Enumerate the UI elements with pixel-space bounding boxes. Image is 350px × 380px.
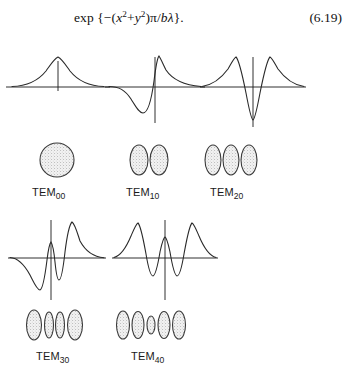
label-tem40-subscript: 40 — [155, 355, 165, 365]
equation-close: }. — [174, 10, 184, 25]
mode-spot — [45, 312, 54, 338]
mode-spot — [40, 143, 74, 177]
label-tem10-prefix: TEM — [126, 186, 150, 198]
label-tem10: TEM10 — [126, 186, 159, 198]
equation-expression: exp {−(x2+y2)π/bλ}. — [74, 10, 184, 26]
label-tem30-subscript: 30 — [60, 355, 70, 365]
equation-plus: + — [127, 10, 135, 25]
equation-var-b: b — [161, 10, 168, 25]
mode-spot — [241, 145, 257, 175]
label-tem00: TEM00 — [32, 186, 65, 198]
mode-spot — [223, 145, 239, 175]
plot-tem20 — [198, 55, 313, 135]
label-tem30-prefix: TEM — [36, 350, 60, 362]
equation-number: (6.19) — [309, 10, 342, 26]
mode-spot — [205, 145, 221, 175]
mode-spot — [68, 310, 83, 340]
mode-spot — [56, 312, 65, 338]
spots-tem10 — [124, 138, 180, 182]
label-tem00-prefix: TEM — [32, 186, 56, 198]
mode-spot — [147, 316, 155, 334]
label-tem20-prefix: TEM — [210, 186, 234, 198]
curve-tem30 — [10, 222, 104, 290]
label-tem30: TEM30 — [36, 350, 69, 362]
mode-spot — [117, 311, 130, 339]
label-tem40: TEM40 — [131, 350, 164, 362]
figure-page: exp {−(x2+y2)π/bλ}. (6.19) — [0, 0, 350, 380]
mode-spot — [130, 145, 148, 175]
spots-tem00 — [36, 138, 80, 182]
mode-spot — [173, 311, 186, 339]
label-tem20-subscript: 20 — [234, 191, 244, 201]
plot-tem30 — [6, 218, 121, 308]
spots-tem40 — [114, 305, 194, 345]
spots-tem30 — [24, 305, 94, 345]
mode-spot — [150, 145, 168, 175]
plot-tem10 — [103, 55, 213, 130]
equation-tail: )π/ — [145, 10, 160, 25]
spots-tem20 — [202, 138, 266, 182]
plot-tem40 — [110, 218, 230, 308]
plot-tem00 — [4, 55, 114, 125]
equation-lead: exp { — [74, 10, 104, 25]
mode-spot — [158, 312, 170, 339]
mode-spot — [27, 310, 42, 340]
label-tem00-subscript: 00 — [56, 191, 66, 201]
label-tem40-prefix: TEM — [131, 350, 155, 362]
mode-spot — [132, 312, 144, 339]
equation-minus: −( — [104, 10, 116, 25]
label-tem20: TEM20 — [210, 186, 243, 198]
label-tem10-subscript: 10 — [150, 191, 160, 201]
